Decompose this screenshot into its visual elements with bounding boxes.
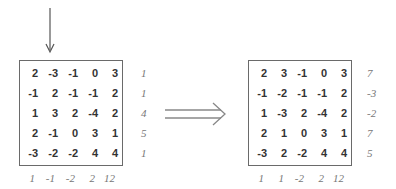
matrix-cell: -1 <box>38 127 58 139</box>
column-sum: 2 <box>75 172 95 184</box>
matrix-cell: 2 <box>287 107 307 119</box>
matrix-cell: 3 <box>98 67 118 79</box>
matrix-cell: 0 <box>307 67 327 79</box>
column-sum: 1 <box>244 172 264 184</box>
matrix-cell: 3 <box>78 127 98 139</box>
matrix-cell: -2 <box>287 147 307 159</box>
matrix-cell: -1 <box>307 87 327 99</box>
column-sum: 12 <box>324 172 344 184</box>
right-matrix: 23-103-1-2-1-121-32-4221031-32-244 <box>248 60 352 166</box>
matrix-cell: 2 <box>98 87 118 99</box>
row-sum: 7 <box>367 67 373 79</box>
matrix-cell: -3 <box>267 107 287 119</box>
matrix-cell: -3 <box>247 147 267 159</box>
row-sum: 5 <box>367 147 373 159</box>
matrix-cell: 1 <box>98 127 118 139</box>
matrix-cell: 1 <box>327 127 347 139</box>
matrix-cell: -3 <box>38 67 58 79</box>
matrix-cell: 2 <box>247 127 267 139</box>
matrix-cell: 1 <box>18 107 38 119</box>
matrix-cell: -1 <box>247 87 267 99</box>
matrix-cell: -1 <box>287 67 307 79</box>
matrix-cell: 1 <box>267 127 287 139</box>
matrix-cell: 2 <box>267 147 287 159</box>
matrix-cell: 3 <box>327 67 347 79</box>
matrix-cell: -2 <box>38 147 58 159</box>
row-sum: -3 <box>367 87 376 99</box>
matrix-cell: 3 <box>307 127 327 139</box>
matrix-cell: 4 <box>78 147 98 159</box>
column-sum: 12 <box>95 172 115 184</box>
matrix-cell: 3 <box>267 67 287 79</box>
matrix-cell: 2 <box>18 67 38 79</box>
matrix-cell: 2 <box>247 67 267 79</box>
matrix-cell: 2 <box>58 107 78 119</box>
matrix-cell: -1 <box>58 87 78 99</box>
row-sum: 1 <box>141 87 147 99</box>
row-sum: 5 <box>141 127 147 139</box>
column-sum: 1 <box>264 172 284 184</box>
column-sum: 2 <box>304 172 324 184</box>
column-sum: 1 <box>15 172 35 184</box>
column-sum: -2 <box>55 172 75 184</box>
double-right-arrow-icon <box>165 102 227 126</box>
matrix-cell: -4 <box>78 107 98 119</box>
matrix-cell: 1 <box>247 107 267 119</box>
matrix-cell: 2 <box>327 107 347 119</box>
matrix-cell: 4 <box>307 147 327 159</box>
matrix-cell: -4 <box>307 107 327 119</box>
matrix-cell: 2 <box>327 87 347 99</box>
matrix-cell: 0 <box>58 127 78 139</box>
matrix-cell: 0 <box>78 67 98 79</box>
matrix-cell: -1 <box>58 67 78 79</box>
matrix-cell: -3 <box>18 147 38 159</box>
matrix-cell: 4 <box>98 147 118 159</box>
matrix-cell: 4 <box>327 147 347 159</box>
matrix-cell: 2 <box>38 87 58 99</box>
matrix-cell: -1 <box>18 87 38 99</box>
left-matrix: 2-3-103-12-1-12132-422-1031-3-2-244 <box>19 60 123 166</box>
matrix-cell: 3 <box>38 107 58 119</box>
matrix-cell: -2 <box>267 87 287 99</box>
row-sum: 7 <box>367 127 373 139</box>
column-sum: -1 <box>35 172 55 184</box>
down-arrow-icon <box>44 8 56 54</box>
column-sum: -2 <box>284 172 304 184</box>
row-sum: 4 <box>141 107 147 119</box>
matrix-cell: 2 <box>18 127 38 139</box>
matrix-cell: -1 <box>78 87 98 99</box>
matrix-cell: -1 <box>287 87 307 99</box>
matrix-cell: 0 <box>287 127 307 139</box>
row-sum: 1 <box>141 147 147 159</box>
matrix-cell: 2 <box>98 107 118 119</box>
matrix-cell: -2 <box>58 147 78 159</box>
row-sum: 1 <box>141 67 147 79</box>
row-sum: -2 <box>367 107 376 119</box>
